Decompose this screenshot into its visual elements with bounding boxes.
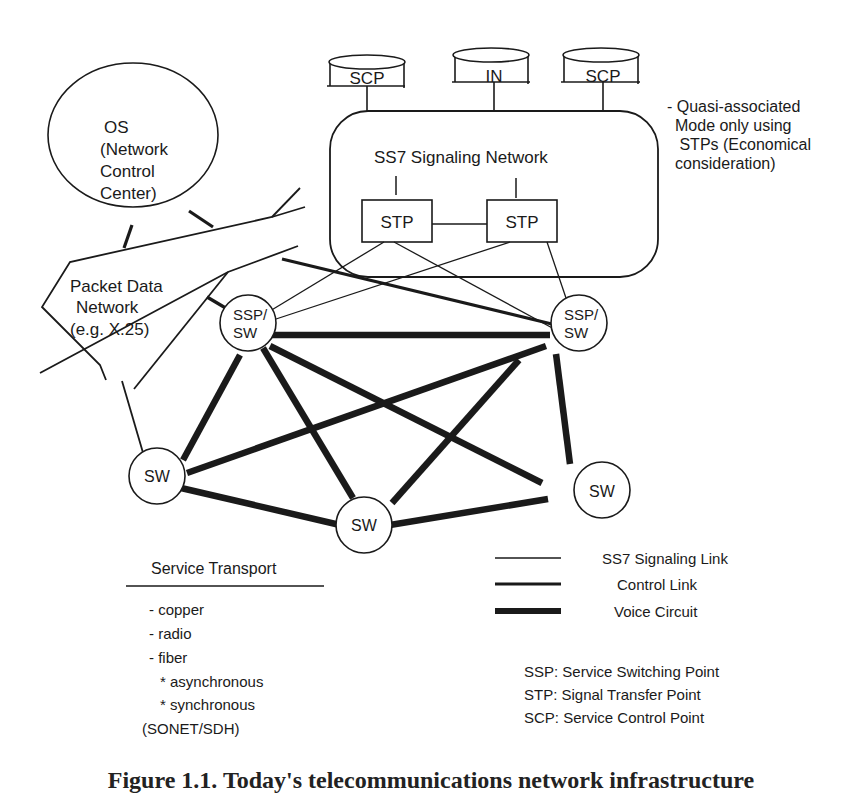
svg-text:STP: Signal Transfer Point: STP: Signal Transfer Point [524,686,702,703]
node-sw-bottom: SW [336,497,392,553]
legend-voice-label: Voice Circuit [614,603,698,620]
svg-text:Packet Data: Packet Data [70,277,163,296]
svg-text:(e.g. X.25): (e.g. X.25) [70,320,149,339]
svg-text:- copper: - copper [149,601,204,618]
quasi-associated-note: - Quasi-associated Mode only using STPs … [667,98,811,172]
svg-text:* synchronous: * synchronous [160,696,255,713]
database-in-label: IN [486,67,503,86]
service-transport-list: Service Transport - copper - radio - fib… [126,560,324,737]
database-scp-right-label: SCP [586,67,621,86]
database-scp-left-label: SCP [350,69,385,88]
abbreviation-list: SSP: Service Switching Point STP: Signal… [524,663,720,726]
voice-circuits [181,335,570,525]
node-ssp-sw-left: SSP/ SW [220,295,276,351]
svg-text:- radio: - radio [149,625,192,642]
svg-text:(SONET/SDH): (SONET/SDH) [142,720,240,737]
svg-text:consideration): consideration) [675,155,776,172]
svg-text:SW: SW [589,483,616,500]
svg-text:SSP: Service Switching Point: SSP: Service Switching Point [524,663,720,680]
svg-text:SW: SW [564,324,589,341]
svg-text:OS: OS [104,118,129,137]
svg-text:SSP/: SSP/ [233,306,268,323]
svg-text:Network: Network [76,298,139,317]
svg-text:SW: SW [351,517,378,534]
svg-text:SCP: Service Control Point: SCP: Service Control Point [524,709,705,726]
node-sw-right: SW [574,462,630,518]
service-transport-title: Service Transport [151,560,277,577]
svg-text:Control: Control [100,162,155,181]
stp-left-label: STP [380,213,413,232]
svg-text:STPs (Economical: STPs (Economical [675,136,811,153]
svg-text:SSP/: SSP/ [564,306,599,323]
ss7-network-boundary [330,111,658,277]
svg-text:(Network: (Network [100,140,169,159]
os-label: OS (Network Control Center) [100,118,169,203]
legend-control-label: Control Link [617,576,698,593]
svg-text:- Quasi-associated: - Quasi-associated [667,98,800,115]
svg-text:* asynchronous: * asynchronous [160,673,263,690]
node-sw-left: SW [129,448,185,504]
figure-caption: Figure 1.1. Today's telecommunications n… [0,768,862,792]
legend-ss7-label: SS7 Signaling Link [602,550,728,567]
packet-network-label: Packet Data Network (e.g. X.25) [70,277,163,339]
svg-text:Mode only using: Mode only using [675,117,792,134]
svg-text:SW: SW [233,324,258,341]
line-legend: SS7 Signaling Link Control Link Voice Ci… [495,550,728,620]
svg-text:- fiber: - fiber [149,649,187,666]
node-ssp-sw-right: SSP/ SW [551,295,607,351]
stp-right-label: STP [505,213,538,232]
ss7-network-title: SS7 Signaling Network [374,148,548,167]
svg-text:Center): Center) [100,184,157,203]
svg-text:SW: SW [144,468,171,485]
